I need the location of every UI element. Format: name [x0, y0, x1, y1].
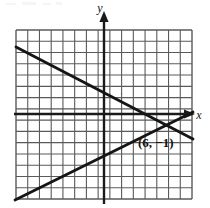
graph-figure: y x (6, −1)	[0, 0, 210, 208]
y-axis-label: y	[96, 1, 103, 15]
coordinate-plane: y x (6, −1)	[0, 0, 210, 208]
intersection-point-label: (6, −1)	[138, 135, 174, 150]
x-axis-label: x	[195, 108, 202, 122]
